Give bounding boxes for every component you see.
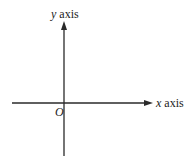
y-axis-label: y axis — [51, 8, 79, 20]
coordinate-axes-diagram: y axis x axis O — [0, 0, 192, 164]
axes-graphic — [0, 0, 192, 164]
origin-label: O — [55, 106, 64, 118]
x-axis-arrow-icon — [144, 100, 153, 106]
x-axis-variable: x — [156, 96, 161, 110]
y-axis-arrow-icon — [61, 21, 67, 30]
x-axis-word: axis — [164, 96, 183, 110]
x-axis-label: x axis — [156, 97, 184, 109]
y-axis-word: axis — [59, 7, 78, 21]
y-axis-variable: y — [51, 7, 56, 21]
